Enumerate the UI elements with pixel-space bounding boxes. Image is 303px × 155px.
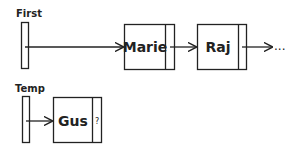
node-marie: Marie (123, 25, 175, 70)
pointer-label-first: First (16, 8, 42, 19)
continuation-ellipsis: ... (274, 39, 285, 53)
linked-list-diagram: First Marie Raj ... Temp Gus ? (0, 0, 303, 155)
pointer-label-temp: Temp (15, 83, 45, 94)
diagram-svg: First Marie Raj ... Temp Gus ? (0, 0, 303, 155)
node-next-gus: ? (95, 117, 99, 126)
pointer-box-temp (23, 97, 30, 143)
node-value-raj: Raj (205, 39, 230, 55)
node-gus: Gus ? (54, 98, 102, 143)
node-raj: Raj (198, 25, 247, 70)
pointer-box-first (22, 23, 29, 69)
node-value-gus: Gus (58, 113, 88, 129)
node-value-marie: Marie (123, 39, 168, 55)
